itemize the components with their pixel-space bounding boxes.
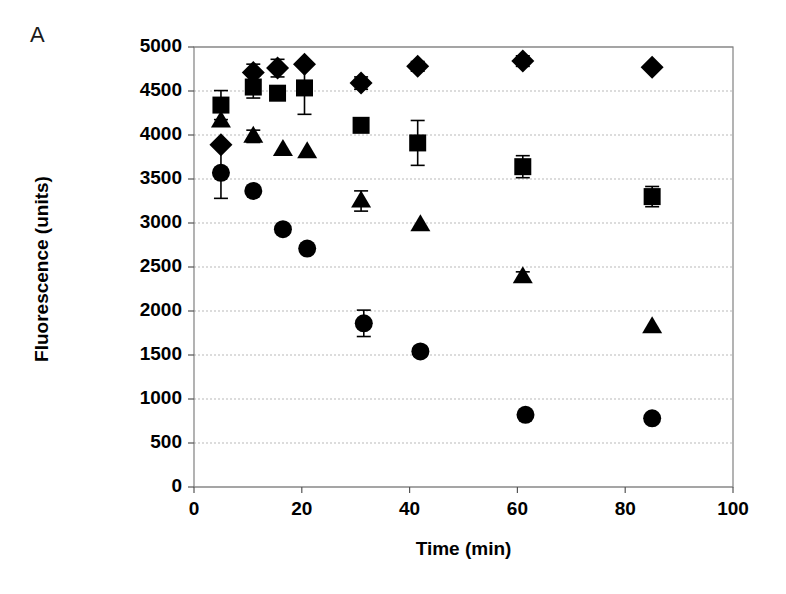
x-tick-label: 0 xyxy=(189,498,200,519)
marker-diamond xyxy=(406,55,429,78)
x-tick-label: 40 xyxy=(399,498,420,519)
y-tick-labels: 0500100015002000250030003500400045005000 xyxy=(140,35,182,496)
marker-square xyxy=(409,134,426,151)
marker-diamond xyxy=(266,57,289,80)
y-tick-label: 2500 xyxy=(140,255,182,276)
marker-circle xyxy=(244,182,262,200)
marker-circle xyxy=(274,220,292,238)
marker-circle xyxy=(212,164,230,182)
marker-triangle xyxy=(297,141,317,158)
series-errorbars-square xyxy=(214,62,659,207)
marker-triangle xyxy=(243,126,263,143)
x-tick-label: 60 xyxy=(507,498,528,519)
series-square xyxy=(212,79,660,206)
y-tick-label: 1000 xyxy=(140,387,182,408)
marker-triangle xyxy=(513,266,533,283)
marker-diamond xyxy=(511,50,534,73)
y-tick-label: 2000 xyxy=(140,299,182,320)
series-diamond xyxy=(209,50,663,157)
marker-square xyxy=(296,79,313,96)
y-tick-label: 3500 xyxy=(140,167,182,188)
figure-panel: A Fluorescence (units) Time (min) 050010… xyxy=(0,0,786,594)
marker-circle xyxy=(355,314,373,332)
y-tick-label: 3000 xyxy=(140,211,182,232)
marker-circle xyxy=(516,406,534,424)
x-tick-label: 100 xyxy=(717,498,749,519)
y-tick-label: 4500 xyxy=(140,79,182,100)
marker-diamond xyxy=(293,53,316,76)
marker-square xyxy=(353,117,370,134)
marker-triangle xyxy=(351,190,371,207)
marker-square xyxy=(245,79,262,96)
y-tick-label: 4000 xyxy=(140,123,182,144)
marker-diamond xyxy=(641,56,664,79)
x-tick-label: 80 xyxy=(615,498,636,519)
marker-circle xyxy=(298,240,316,258)
series-circle xyxy=(212,164,661,428)
marker-square xyxy=(269,85,286,102)
x-tick-labels: 020406080100 xyxy=(189,498,749,519)
marker-triangle xyxy=(273,139,293,156)
y-tick-label: 1500 xyxy=(140,343,182,364)
scatter-plot: 0500100015002000250030003500400045005000… xyxy=(0,0,786,594)
data-series-layer xyxy=(209,50,663,428)
series-errorbars-diamond xyxy=(246,56,530,89)
marker-square xyxy=(514,158,531,175)
marker-square xyxy=(644,188,661,205)
marker-circle xyxy=(643,409,661,427)
y-tick-label: 5000 xyxy=(140,35,182,56)
marker-triangle xyxy=(642,316,662,333)
x-tick-label: 20 xyxy=(291,498,312,519)
marker-diamond xyxy=(350,72,373,95)
marker-diamond xyxy=(209,133,232,156)
y-tick-label: 500 xyxy=(150,431,182,452)
y-tick-label: 0 xyxy=(171,475,182,496)
marker-circle xyxy=(411,342,429,360)
